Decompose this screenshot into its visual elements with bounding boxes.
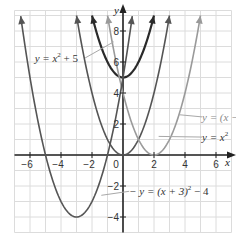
curve-label: y = (x − 2)2 (201, 110, 236, 124)
annotation-pointer (101, 191, 129, 195)
x-tick-label: −4 (52, 159, 64, 170)
x-tick-label: −6 (21, 159, 33, 170)
y-tick-label: −4 (108, 212, 120, 223)
x-tick-label: 2 (151, 159, 157, 170)
y-tick-label: 6 (113, 57, 119, 68)
parabola-graph: xy −6−4−20246−4−22468 y = x2 + 5y = (x −… (0, 0, 236, 248)
annotations: y = x2 + 5y = (x − 2)2y = x2− y = (x + 3… (34, 42, 236, 198)
y-tick-label: 4 (113, 88, 119, 99)
curve-arrow-icon (105, 16, 112, 24)
annotation-pointer (179, 115, 202, 117)
curve-label: y = x2 + 5 (34, 51, 79, 64)
curve-arrow-icon (196, 16, 203, 24)
x-tick-label: −2 (83, 159, 95, 170)
x-tick-label: 6 (213, 159, 219, 170)
x-axis-label: x (224, 156, 230, 168)
y-tick-label: −2 (108, 181, 120, 192)
x-tick-label: 4 (182, 159, 188, 170)
curve-label: − y = (x + 3)2 − 4 (129, 184, 209, 198)
annotation-pointer (159, 136, 202, 137)
y-axis-arrow-icon (120, 4, 127, 13)
curve-arrow-icon (128, 16, 135, 24)
curve-arrow-icon (74, 16, 81, 24)
curve-arrow-icon (18, 16, 25, 24)
curve-arrow-icon (165, 16, 172, 24)
curve-label: y = x2 (201, 130, 229, 143)
y-axis-label: y (113, 4, 119, 16)
y-tick-label: 8 (113, 26, 119, 37)
x-tick-label: 0 (113, 159, 119, 170)
y-tick-label: 2 (113, 119, 119, 130)
